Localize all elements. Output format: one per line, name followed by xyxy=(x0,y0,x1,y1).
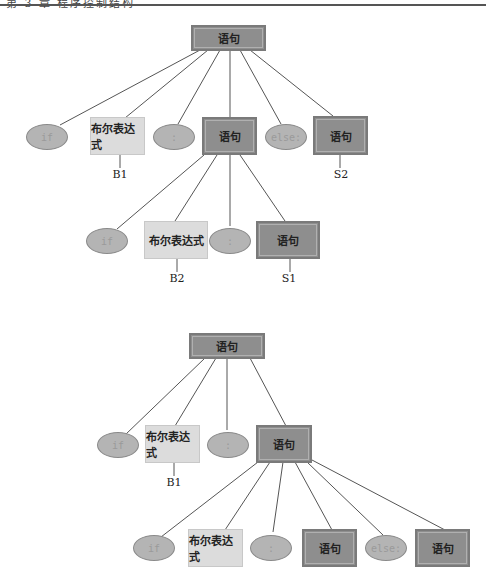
annotation-b2: B2 xyxy=(169,272,184,285)
node-label: : xyxy=(268,543,274,554)
tree2-bool-expr-b1: 布尔表达式 xyxy=(145,425,200,463)
tree2-nested-statement: 语句 xyxy=(256,425,312,463)
tree2-inner-then-statement: 语句 xyxy=(302,529,357,567)
node-label: : xyxy=(171,132,177,143)
node-label: else: xyxy=(271,132,301,143)
node-label: else: xyxy=(371,543,401,554)
tree2-inner-else-keyword: else: xyxy=(365,535,407,561)
node-label: if xyxy=(112,440,124,451)
tree2-inner-if-keyword: if xyxy=(133,535,175,561)
annotation-s2: S2 xyxy=(334,168,349,181)
tree2-inner-else-statement: 语句 xyxy=(415,529,470,567)
node-label: if xyxy=(41,132,53,143)
tree1-inner-colon: : xyxy=(209,228,251,254)
node-label: 布尔表达式 xyxy=(189,532,242,564)
tree1-bool-expr-b2: 布尔表达式 xyxy=(144,221,208,259)
node-label: 语句 xyxy=(277,232,299,248)
tree-edges xyxy=(0,0,486,567)
node-label: 语句 xyxy=(273,436,295,452)
node-label: 语句 xyxy=(216,338,238,354)
tree2-if-keyword: if xyxy=(97,432,139,458)
tree1-statement-s1: 语句 xyxy=(256,221,320,259)
node-label: 布尔表达式 xyxy=(146,428,199,460)
tree2-inner-bool-expr: 布尔表达式 xyxy=(188,529,243,567)
tree1-bool-expr-b1: 布尔表达式 xyxy=(90,117,145,155)
tree1-if-keyword: if xyxy=(26,124,68,150)
node-label: : xyxy=(227,236,233,247)
annotation-b1: B1 xyxy=(112,168,127,181)
node-label: 布尔表达式 xyxy=(91,120,144,152)
annotation-s1: S1 xyxy=(282,272,297,285)
annotation-b1: B1 xyxy=(166,476,181,489)
node-label: 语句 xyxy=(319,540,341,556)
node-label: if xyxy=(148,543,160,554)
tree1-inner-if-keyword: if xyxy=(86,228,128,254)
tree1-else-keyword: else: xyxy=(265,124,307,150)
node-label: if xyxy=(101,236,113,247)
tree2-inner-colon: : xyxy=(250,535,292,561)
node-label: 语句 xyxy=(432,540,454,556)
tree1-root-statement: 语句 xyxy=(191,25,266,51)
node-label: : xyxy=(225,440,231,451)
tree1-nested-statement: 语句 xyxy=(202,117,257,155)
node-label: 语句 xyxy=(330,128,352,144)
tree2-colon: : xyxy=(207,432,249,458)
tree2-root-statement: 语句 xyxy=(189,333,265,359)
tree1-colon: : xyxy=(153,124,195,150)
node-label: 语句 xyxy=(219,128,241,144)
tree1-statement-s2: 语句 xyxy=(313,116,368,155)
node-label: 布尔表达式 xyxy=(149,232,204,248)
node-label: 语句 xyxy=(218,30,240,46)
